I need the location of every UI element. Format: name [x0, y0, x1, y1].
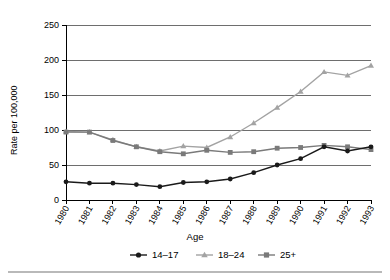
data-point	[157, 149, 162, 154]
data-point	[134, 144, 139, 149]
data-point	[369, 144, 374, 149]
data-point	[64, 179, 69, 184]
data-point	[157, 184, 162, 189]
legend-title: Age	[187, 231, 204, 242]
data-point	[181, 151, 186, 156]
y-tick-label: 250	[44, 20, 59, 30]
data-point	[345, 149, 350, 154]
data-point	[275, 146, 280, 151]
data-point	[204, 148, 209, 153]
data-point	[204, 179, 209, 184]
data-point	[275, 163, 280, 168]
data-point	[87, 181, 92, 186]
data-point	[251, 149, 256, 154]
data-point	[228, 150, 233, 155]
data-point	[228, 177, 233, 182]
y-tick-label: 150	[44, 90, 59, 100]
legend-label: 25+	[280, 249, 297, 260]
chart-container: 050100150200250 198019811982198319841985…	[0, 0, 390, 280]
legend-marker	[264, 252, 269, 257]
data-point	[87, 130, 92, 135]
data-point	[64, 130, 69, 135]
legend-label: 18–24	[218, 249, 244, 260]
legend-marker	[136, 252, 141, 257]
data-point	[322, 144, 327, 149]
data-point	[251, 170, 256, 175]
data-point	[181, 180, 186, 185]
y-tick-label: 50	[49, 160, 59, 170]
y-tick-label: 100	[44, 125, 59, 135]
legend-label: 14–17	[152, 249, 178, 260]
y-tick-label: 200	[44, 55, 59, 65]
y-tick-label: 0	[54, 195, 59, 205]
data-point	[134, 182, 139, 187]
data-point	[298, 156, 303, 161]
data-point	[111, 181, 116, 186]
data-point	[111, 138, 116, 143]
line-chart: 050100150200250 198019811982198319841985…	[0, 0, 390, 280]
y-axis-title: Rate per 100,000	[9, 85, 19, 155]
data-point	[298, 145, 303, 150]
data-point	[345, 144, 350, 149]
